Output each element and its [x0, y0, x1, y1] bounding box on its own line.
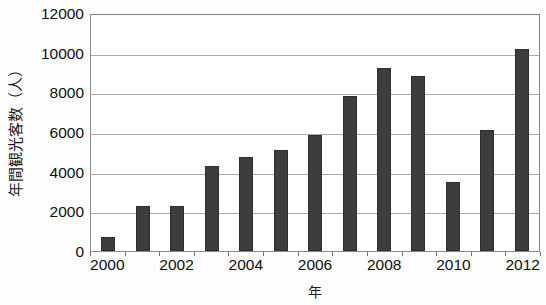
x-axis-tick-label: 2004 [229, 256, 263, 274]
x-axis-tick-label: 2010 [436, 256, 470, 274]
y-axis-tick-label: 6000 [50, 124, 84, 142]
bar-slot [436, 15, 470, 251]
x-axis-tick [540, 252, 541, 256]
bar-slot [505, 15, 539, 251]
bar-slot [263, 15, 297, 251]
x-axis-tick-label: 2000 [90, 256, 124, 274]
x-axis-title: 年 [90, 281, 540, 301]
bar-slot [194, 15, 228, 251]
bar[interactable] [411, 76, 425, 251]
bar-slot [401, 15, 435, 251]
bar-slot [91, 15, 125, 251]
bar-slot [229, 15, 263, 251]
bar[interactable] [308, 135, 322, 251]
bar-slot [125, 15, 159, 251]
bar-slot [470, 15, 504, 251]
y-axis-tick-labels: 020004000600080001000012000 [26, 14, 88, 252]
bars-layer [91, 15, 539, 251]
y-axis-tick-label: 8000 [50, 84, 84, 102]
y-axis-tick-label: 4000 [50, 164, 84, 182]
plot-area [90, 14, 540, 252]
y-axis-tick-label: 0 [75, 243, 84, 261]
bar-chart-figure: 年間観光客数（人） 020004000600080001000012000 20… [0, 0, 546, 305]
bar-slot [367, 15, 401, 251]
bar[interactable] [205, 166, 219, 251]
y-axis-tick-label: 2000 [50, 203, 84, 221]
bar-slot [332, 15, 366, 251]
bar[interactable] [170, 206, 184, 251]
bar[interactable] [343, 96, 357, 251]
y-axis-tick-label: 10000 [41, 45, 84, 63]
bar[interactable] [446, 182, 460, 251]
y-axis-tick-label: 12000 [41, 5, 84, 23]
x-axis-tick-label: 2008 [367, 256, 401, 274]
x-axis-tick-label: 2006 [298, 256, 332, 274]
bar[interactable] [515, 49, 529, 251]
bar-slot [160, 15, 194, 251]
x-axis-tick-labels: 2000200220042006200820102012 [90, 256, 540, 280]
bar[interactable] [274, 150, 288, 251]
bar[interactable] [239, 157, 253, 251]
bar-slot [298, 15, 332, 251]
x-axis-tick-label: 2002 [159, 256, 193, 274]
x-axis-tick-label: 2012 [505, 256, 539, 274]
bar[interactable] [101, 237, 115, 251]
bar[interactable] [480, 130, 494, 251]
y-axis-title-text: 年間観光客数（人） [4, 62, 25, 197]
y-axis-title: 年間観光客数（人） [0, 0, 28, 258]
bar[interactable] [377, 68, 391, 251]
bar[interactable] [136, 206, 150, 251]
